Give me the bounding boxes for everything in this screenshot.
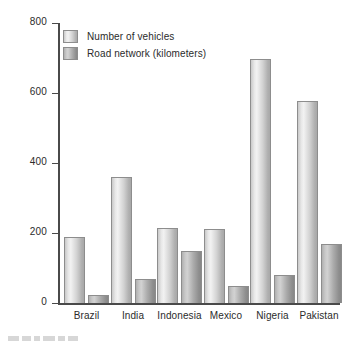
- scan-mark-4: [58, 336, 65, 341]
- bar-group-pakistan: [297, 18, 342, 308]
- legend-swatch-icon-series-1: [63, 30, 78, 43]
- bar-indonesia-series-1: [157, 228, 178, 303]
- bar-pakistan-series-1: [297, 101, 318, 303]
- y-tick-label-0: 0: [41, 296, 47, 307]
- x-axis-label-pakistan: Pakistan: [287, 310, 352, 321]
- bar-group-nigeria: [250, 18, 295, 308]
- scan-mark-1: [22, 336, 31, 341]
- y-tick-0: 0: [52, 303, 59, 304]
- legend-swatch-icon-series-2: [63, 47, 78, 60]
- y-tick-label-400: 400: [30, 156, 47, 167]
- y-tick-label-800: 800: [30, 16, 47, 27]
- legend-label-series-2: Road network (kilometers): [87, 48, 206, 59]
- bar-brazil-series-1: [64, 237, 85, 304]
- scan-mark-5: [68, 336, 78, 341]
- y-tick-200: 200: [52, 233, 59, 234]
- y-tick-label-200: 200: [30, 226, 47, 237]
- bar-brazil-series-2: [88, 295, 109, 303]
- chart-legend: Number of vehicles Road network (kilomet…: [63, 28, 243, 62]
- scan-mark-3: [43, 336, 55, 341]
- bar-mexico-series-1: [204, 229, 225, 303]
- y-tick-800: 800: [52, 23, 59, 24]
- bar-mexico-series-2: [228, 286, 249, 304]
- y-tick-600: 600: [52, 93, 59, 94]
- bar-nigeria-series-2: [274, 275, 295, 303]
- scan-mark-2: [34, 336, 40, 341]
- bar-indonesia-series-2: [181, 251, 202, 303]
- legend-item-number-of-vehicles: Number of vehicles: [63, 28, 243, 44]
- bar-india-series-1: [111, 177, 132, 303]
- scan-mark-0: [8, 336, 19, 341]
- scan-artifact-marks: [8, 336, 78, 342]
- y-tick-400: 400: [52, 163, 59, 164]
- legend-label-series-1: Number of vehicles: [87, 31, 174, 42]
- bar-pakistan-series-2: [321, 244, 342, 304]
- y-tick-label-600: 600: [30, 86, 47, 97]
- bar-india-series-2: [135, 279, 156, 303]
- bar-chart-figure: % Total growth 8006004002000 BrazilIndia…: [0, 0, 358, 348]
- bar-nigeria-series-1: [250, 59, 271, 303]
- legend-item-road-network: Road network (kilometers): [63, 45, 243, 61]
